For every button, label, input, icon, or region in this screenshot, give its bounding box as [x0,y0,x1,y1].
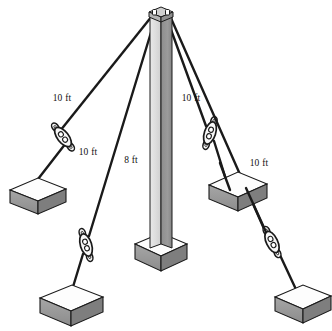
turnbuckle-front-right [259,224,284,260]
label-pole-height: 8 ft [124,155,138,165]
guy-wire-back-left [28,16,152,192]
anchor-block-front-left [40,285,103,326]
label-guy-front-right: 10 ft [250,158,269,168]
diagram-canvas: 10 ft 10 ft 8 ft 10 ft 10 ft [0,0,332,331]
guyed-pole-diagram: 10 ft 10 ft 8 ft 10 ft 10 ft [0,0,332,331]
pole-left-face [150,11,161,248]
turnbuckle-back-left [48,120,78,154]
pole-right-face [161,11,172,248]
label-guy-front-left: 10 ft [79,147,98,157]
anchor-block-back-right [209,172,267,211]
label-guy-back-right: 10 ft [182,93,201,103]
anchor-block-back-left [10,178,66,214]
eye-fitting-right [166,10,170,16]
guy-wire-front-right [170,16,300,298]
cable-segment-upper [89,16,156,236]
turnbuckle-front-left [76,227,97,263]
anchor-block-front-right [275,285,331,323]
eye-fitting-left [153,10,157,16]
label-guy-back-left: 10 ft [53,93,72,103]
pole-shaft [150,11,172,248]
